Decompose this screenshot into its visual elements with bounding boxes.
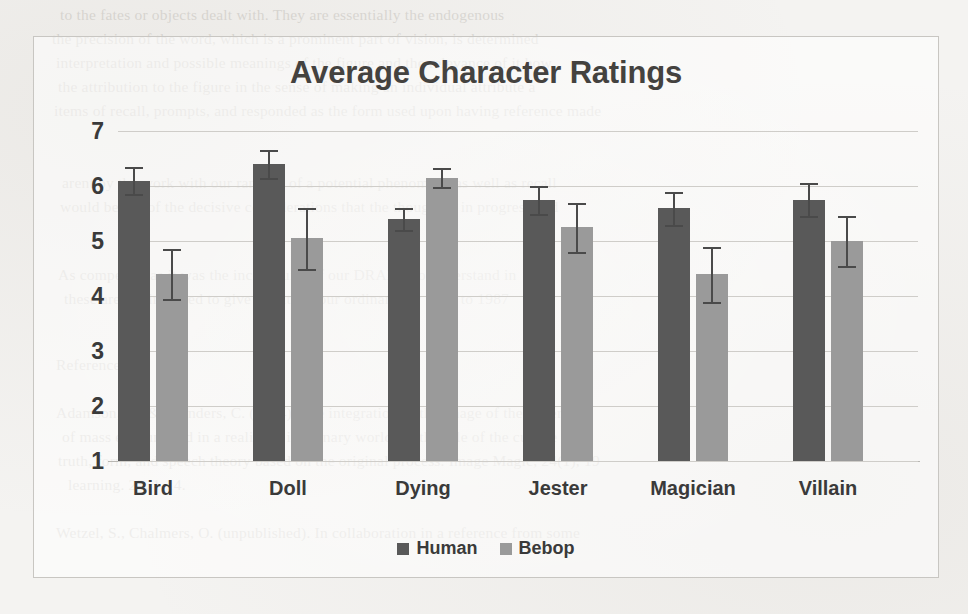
bar-human-doll <box>253 164 285 461</box>
bar-bebop-doll <box>291 238 323 461</box>
error-bar-line <box>711 247 713 302</box>
legend-label: Human <box>416 538 477 559</box>
error-bar-cap-bottom <box>163 299 181 301</box>
x-axis-label-bird: Bird <box>93 477 213 500</box>
bar-human-jester <box>523 200 555 461</box>
error-bar-cap-top <box>433 168 451 170</box>
error-bar-cap-bottom <box>298 269 316 271</box>
error-bar-cap-top <box>395 208 413 210</box>
error-bar-line <box>306 208 308 269</box>
error-bar-cap-top <box>260 150 278 152</box>
error-bar-cap-bottom <box>800 216 818 218</box>
error-bar-cap-top <box>568 203 586 205</box>
bar-human-magician <box>658 208 690 461</box>
y-axis-tick-label: 6 <box>91 173 104 200</box>
x-axis-label-dying: Dying <box>363 477 483 500</box>
bar-bebop-villain <box>831 241 863 461</box>
bar-group: Dying <box>388 131 458 461</box>
y-axis-tick-label: 1 <box>91 448 104 475</box>
x-axis-label-magician: Magician <box>633 477 753 500</box>
bar-group: Bird <box>118 131 188 461</box>
bar-group: Doll <box>253 131 323 461</box>
bar-bebop-bird <box>156 274 188 461</box>
error-bar-cap-top <box>800 183 818 185</box>
bar-bebop-magician <box>696 274 728 461</box>
error-bar-cap-bottom <box>125 194 143 196</box>
error-bar-line <box>576 203 578 253</box>
bar-group: Magician <box>658 131 728 461</box>
plot-area: 1234567BirdDollDyingJesterMagicianVillai… <box>118 131 918 461</box>
error-bar-line <box>673 192 675 225</box>
bleed-text-line: to the fates or objects dealt with. They… <box>60 2 504 27</box>
y-axis-tick-label: 2 <box>91 393 104 420</box>
error-bar-cap-top <box>163 249 181 251</box>
error-bar-cap-top <box>298 208 316 210</box>
error-bar-cap-bottom <box>260 178 278 180</box>
error-bar-cap-bottom <box>395 230 413 232</box>
error-bar-line <box>403 208 405 230</box>
error-bar-cap-bottom <box>433 187 451 189</box>
error-bar-cap-bottom <box>665 225 683 227</box>
legend-item-human: Human <box>397 538 477 559</box>
legend-swatch-human <box>397 543 409 555</box>
y-gridline <box>118 461 918 462</box>
chart-title: Average Character Ratings <box>34 55 938 91</box>
error-bar-line <box>441 168 443 187</box>
y-axis-tick-label: 5 <box>91 228 104 255</box>
error-bar-cap-top <box>125 167 143 169</box>
x-axis-label-jester: Jester <box>498 477 618 500</box>
chart-legend: HumanBebop <box>34 538 938 559</box>
chart-container: Average Character Ratings 1234567BirdDol… <box>33 36 939 578</box>
bar-human-dying <box>388 219 420 461</box>
bar-group: Villain <box>793 131 863 461</box>
y-axis-tick-label: 3 <box>91 338 104 365</box>
legend-item-bebop: Bebop <box>500 538 575 559</box>
error-bar-cap-top <box>530 186 548 188</box>
x-axis-label-villain: Villain <box>768 477 888 500</box>
legend-swatch-bebop <box>500 543 512 555</box>
legend-label: Bebop <box>519 538 575 559</box>
error-bar-line <box>133 167 135 195</box>
error-bar-cap-bottom <box>530 214 548 216</box>
error-bar-line <box>268 150 270 178</box>
error-bar-cap-bottom <box>838 266 856 268</box>
error-bar-cap-top <box>665 192 683 194</box>
error-bar-line <box>808 183 810 216</box>
bar-human-bird <box>118 181 150 462</box>
x-axis-label-doll: Doll <box>228 477 348 500</box>
bar-bebop-dying <box>426 178 458 461</box>
bar-human-villain <box>793 200 825 461</box>
error-bar-cap-bottom <box>703 302 721 304</box>
error-bar-line <box>538 186 540 214</box>
error-bar-cap-top <box>703 247 721 249</box>
error-bar-line <box>846 216 848 266</box>
y-axis-tick-label: 7 <box>91 118 104 145</box>
error-bar-cap-bottom <box>568 252 586 254</box>
error-bar-cap-top <box>838 216 856 218</box>
bar-bebop-jester <box>561 227 593 461</box>
bar-group: Jester <box>523 131 593 461</box>
error-bar-line <box>171 249 173 299</box>
y-axis-tick-label: 4 <box>91 283 104 310</box>
